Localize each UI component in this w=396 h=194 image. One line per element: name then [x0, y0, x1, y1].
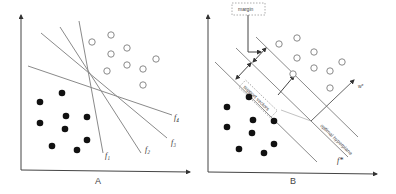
filled-points-a [37, 90, 91, 154]
support-vectors-box: support vectors [239, 80, 278, 118]
label-f2: f₂ [145, 145, 150, 154]
normal-label: w* [358, 83, 364, 89]
svm-diagram: f₁ f₂ f₃ f₄ A w* margin support vectors … [0, 0, 396, 194]
line-f3 [41, 33, 167, 138]
label-f3: f₃ [171, 138, 176, 147]
open-points-a [89, 32, 159, 88]
x-axis-a [21, 170, 190, 172]
panel-b: w* margin support vectors optimal hyperp… [208, 3, 377, 186]
panel-a: f₁ f₂ f₃ f₄ A [21, 15, 190, 186]
margin-arrow-lower [236, 63, 251, 79]
function-label: f* [337, 156, 343, 165]
margin-arrow-upper [253, 48, 266, 62]
line-f4 [28, 66, 172, 115]
label-f4: f₄ [174, 113, 179, 122]
caption-b: B [290, 176, 296, 186]
filled-points-b [224, 94, 278, 157]
x-axis-b [208, 172, 377, 174]
label-f1: f₁ [105, 151, 110, 160]
margin-label: margin [238, 6, 254, 12]
open-points-b [276, 35, 345, 91]
caption-a: A [95, 176, 101, 186]
optimal-hyperplane-line [236, 48, 348, 157]
